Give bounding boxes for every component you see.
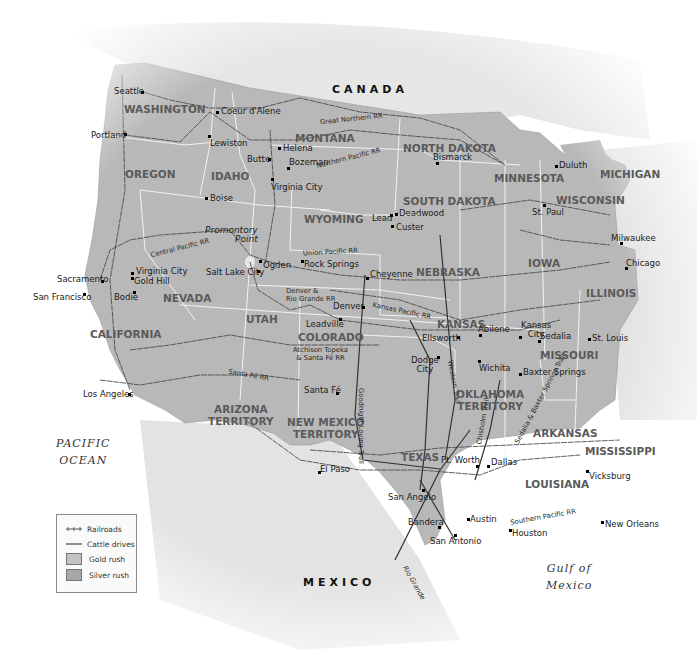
legend-label: Cattle drives <box>87 540 135 549</box>
state-missouri: MISSOURI <box>540 349 598 361</box>
arizona-line-2: TERRITORY <box>208 415 274 427</box>
denver-rio-grande-line-1: Denver & <box>286 287 336 295</box>
water-label-pacific: PACIFIC OCEAN <box>56 436 111 469</box>
state-nebraska: NEBRASKA <box>416 266 480 278</box>
city-virginia-city-nv: Virginia City <box>136 267 187 276</box>
city-rock-springs: Rock Springs <box>304 260 359 269</box>
railroad-line-icon <box>66 526 82 532</box>
state-louisiana: LOUISIANA <box>525 478 589 490</box>
country-label-mexico: MEXICO <box>303 577 375 588</box>
state-illinois: ILLINOIS <box>586 287 636 299</box>
city-portland: Portland <box>91 131 126 140</box>
city-dot-abilene <box>479 334 482 337</box>
city-dot-baxter-springs <box>519 373 522 376</box>
gulf-line-1: Gulf of <box>546 561 592 578</box>
legend-item-cattle-drives: Cattle drives <box>66 538 135 550</box>
gold-rush-swatch-icon <box>66 553 82 565</box>
city-dot-bismarck <box>436 162 439 165</box>
city-coeur-dalene: Coeur d'Alene <box>221 107 281 116</box>
city-dallas: Dallas <box>491 458 517 467</box>
city-dot-ogden <box>259 260 262 263</box>
state-michigan: MICHIGAN <box>600 168 660 180</box>
atchison-line-2: & Santa Fé RR <box>293 354 348 362</box>
city-ft-worth: Ft. Worth <box>441 456 480 465</box>
denver-rio-grande-line-2: Rio Grande RR <box>286 295 336 303</box>
city-boise: Boise <box>210 194 233 203</box>
state-nevada: NEVADA <box>163 292 211 304</box>
city-dot-ft-worth <box>476 465 479 468</box>
state-oregon: OREGON <box>125 168 176 180</box>
city-san-francisco: San Francisco <box>33 293 91 302</box>
state-arkansas: ARKANSAS <box>533 427 598 439</box>
city-bandera: Bandera <box>408 518 444 527</box>
city-dot-new-orleans <box>601 521 604 524</box>
city-sedalia: Sedalia <box>540 332 571 341</box>
dodge-city-line-2: City <box>411 365 439 374</box>
trail-label-goodnight-loving: Goodnight Loving Trail <box>357 388 364 464</box>
map-legend: Railroads Cattle drives Gold rush Silver… <box>56 514 137 593</box>
state-idaho: IDAHO <box>211 170 249 182</box>
city-helena: Helena <box>283 144 313 153</box>
gulf-line-2: Mexico <box>546 578 592 595</box>
state-arizona: ARIZONA TERRITORY <box>208 403 274 427</box>
city-el-paso: El Paso <box>320 465 350 474</box>
state-california: CALIFORNIA <box>90 328 161 340</box>
state-new-mexico: NEW MEXICO TERRITORY <box>287 416 364 440</box>
cattle-drive-line-icon <box>66 541 82 547</box>
city-ogden: Ogden <box>263 261 291 270</box>
state-utah: UTAH <box>246 313 278 325</box>
city-lead: Lead <box>372 214 392 223</box>
city-dot-custer <box>391 225 394 228</box>
pacific-line-1: PACIFIC <box>56 436 111 453</box>
new-mexico-line-1: NEW MEXICO <box>287 416 364 428</box>
city-houston: Houston <box>512 529 547 538</box>
new-mexico-line-2: TERRITORY <box>287 428 364 440</box>
state-wyoming: WYOMING <box>304 213 364 225</box>
legend-item-gold-rush: Gold rush <box>66 553 125 565</box>
water-label-gulf: Gulf of Mexico <box>546 561 592 594</box>
city-los-angeles: Los Angeles <box>83 390 134 399</box>
city-sacramento: Sacramento <box>57 275 108 284</box>
city-san-antonio: San Antonio <box>430 537 481 546</box>
city-salt-lake-city: Salt Lake City <box>206 268 264 277</box>
city-milwaukee: Milwaukee <box>611 234 656 243</box>
city-dot-st-louis <box>588 338 591 341</box>
state-south-dakota: SOUTH DAKOTA <box>403 195 496 207</box>
city-dot-bozeman <box>287 167 290 170</box>
rr-label-denver-rio-grande: Denver & Rio Grande RR <box>286 287 336 304</box>
city-wichita: Wichita <box>479 364 511 373</box>
city-austin: Austin <box>470 515 497 524</box>
legend-item-silver-rush: Silver rush <box>66 569 129 581</box>
city-san-angelo: San Angelo <box>388 493 436 502</box>
city-leadville: Leadville <box>306 320 344 329</box>
city-duluth: Duluth <box>559 161 587 170</box>
legend-label: Railroads <box>87 525 122 534</box>
legend-label: Silver rush <box>89 571 129 580</box>
city-dot-dallas <box>487 465 490 468</box>
city-dot-deadwood <box>395 213 398 216</box>
city-denver: Denver <box>333 302 364 311</box>
state-mississippi: MISSISSIPPI <box>585 445 656 457</box>
arizona-line-1: ARIZONA <box>208 403 274 415</box>
city-dot-virginia-city-nv <box>131 272 134 275</box>
legend-item-railroads: Railroads <box>66 523 122 535</box>
country-label-canada: CANADA <box>332 84 408 95</box>
city-dot-boise <box>205 197 208 200</box>
city-custer: Custer <box>396 223 424 232</box>
city-santa-fe: Santa Fé <box>304 386 341 395</box>
city-dot-cheyenne <box>366 277 369 280</box>
city-gold-hill: Gold Hill <box>134 277 170 286</box>
pacific-line-2: OCEAN <box>56 453 111 470</box>
city-bodie: Bodie <box>114 293 138 302</box>
state-wisconsin: WISCONSIN <box>556 194 625 206</box>
city-dot-helena <box>278 147 281 150</box>
city-seattle: Seattle <box>114 87 144 96</box>
silver-rush-swatch-icon <box>66 569 82 581</box>
city-vicksburg: Vicksburg <box>589 472 631 481</box>
state-minnesota: MINNESOTA <box>494 172 564 184</box>
city-deadwood: Deadwood <box>399 209 444 218</box>
city-dot-coeur-dalene <box>216 111 219 114</box>
rr-label-atchison-topeka: Atchison Topeka & Santa Fé RR <box>293 346 348 363</box>
city-new-orleans: New Orleans <box>605 520 659 529</box>
city-dot-virginia-city-mt <box>271 178 274 181</box>
